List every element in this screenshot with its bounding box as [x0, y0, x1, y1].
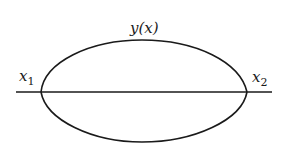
upper-curve	[41, 40, 247, 92]
right-point-label: x2	[252, 68, 267, 89]
lower-curve	[41, 92, 247, 142]
curve-label: y(x)	[129, 19, 159, 37]
left-point-label: x1	[19, 67, 34, 88]
diagram-canvas: y(x) x1 x2	[0, 0, 284, 152]
